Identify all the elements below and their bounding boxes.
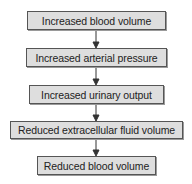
node-reduced-extracellular-fluid-volume: Reduced extracellular fluid volume xyxy=(10,121,183,139)
node-label: Increased arterial pressure xyxy=(35,52,157,64)
node-increased-blood-volume: Increased blood volume xyxy=(27,11,166,30)
node-label: Increased blood volume xyxy=(42,15,151,27)
node-label: Increased urinary output xyxy=(41,89,152,101)
node-label: Reduced extracellular fluid volume xyxy=(18,124,175,136)
node-reduced-blood-volume: Reduced blood volume xyxy=(37,156,156,175)
node-label: Reduced blood volume xyxy=(44,160,149,172)
node-increased-urinary-output: Increased urinary output xyxy=(29,85,164,104)
node-increased-arterial-pressure: Increased arterial pressure xyxy=(26,48,167,67)
